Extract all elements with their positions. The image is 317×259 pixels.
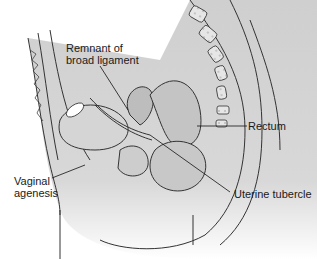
label-broad-ligament: Remnant of broad ligament xyxy=(66,42,139,66)
label-rectum: Rectum xyxy=(248,120,286,132)
anatomy-diagram: Remnant of broad ligament Rectum Vaginal… xyxy=(0,0,317,259)
label-uterine-tubercle: Uterine tubercle xyxy=(234,188,312,200)
label-vaginal-agenesis: Vaginal agenesis xyxy=(14,175,58,199)
